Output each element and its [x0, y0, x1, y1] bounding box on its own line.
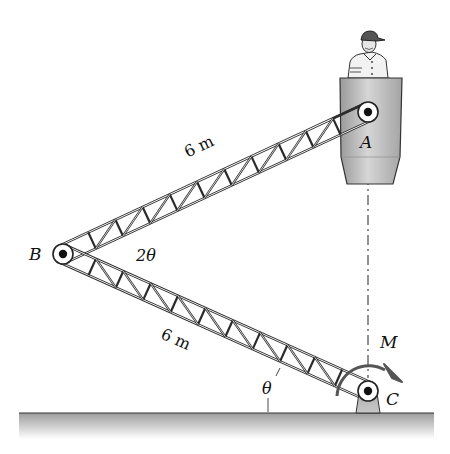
label-angle-c: θ	[262, 381, 272, 397]
label-angle-b: 2θ	[136, 248, 156, 264]
label-point-c: C	[386, 391, 399, 408]
upper-boom-truss	[59, 104, 371, 262]
lower-boom-truss	[59, 246, 371, 399]
ground	[19, 413, 434, 439]
pin-a	[358, 102, 378, 122]
boom-lift-diagram: A B C 6 m 6 m 2θ θ M	[0, 0, 450, 454]
theta-leader	[276, 368, 280, 376]
label-moment: M	[380, 334, 397, 351]
diagram-canvas	[0, 0, 450, 454]
pin-c	[358, 381, 378, 401]
label-point-a: A	[360, 134, 372, 151]
pin-b	[53, 244, 73, 264]
label-point-b: B	[29, 246, 42, 263]
